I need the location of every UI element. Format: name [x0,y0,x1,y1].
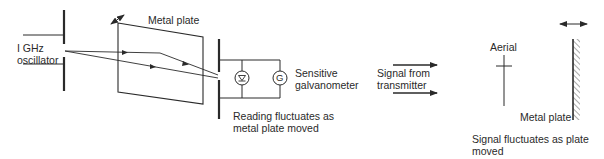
left-caption-line2: metal plate moved [233,122,319,134]
right-caption-line1: Signal fluctuates as plate [472,133,589,145]
detector-circuit [219,60,280,98]
ray-arrow-icon [122,50,128,55]
wave-rays [65,50,218,78]
metal-plate-tilted [118,23,203,104]
aerial-icon [496,55,512,106]
aerial-label: Aerial [490,41,517,53]
oscillator-label-line1: I GHz [17,42,44,54]
left-caption-line1: Reading fluctuates as [233,110,334,122]
right-caption-line2: moved [472,145,504,157]
signal-label-line2: transmitter [377,79,427,91]
diode-icon [235,71,249,85]
reflector-plate-label: Metal plate [520,111,571,123]
detector-label-line1: Sensitive [295,67,338,79]
signal-label-line1: Signal from [377,67,430,79]
metal-plate-label: Metal plate [148,14,199,26]
reflector-plate [573,39,580,120]
oscillator-label-line2: oscillator [17,54,58,66]
galvanometer-symbol: G [276,72,283,84]
detector-label-line2: galvanometer [295,79,359,91]
